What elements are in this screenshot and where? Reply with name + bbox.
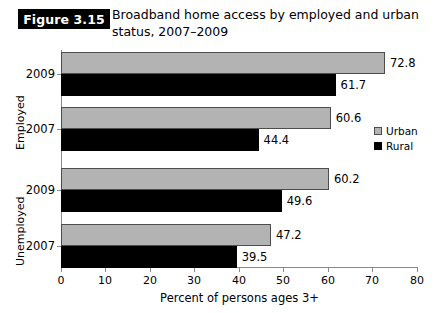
bar-employed-2007-urban[interactable] [61, 107, 331, 129]
bar-employed-2009-rural[interactable] [61, 74, 336, 96]
bar-value-employed-2009-rural: 61.7 [341, 74, 367, 96]
x-tick-label: 10 [90, 274, 120, 287]
bar-value-unemployed-2007-rural: 39.5 [242, 246, 268, 268]
x-axis-tick [150, 268, 151, 272]
x-axis-tick [372, 268, 373, 272]
x-tick-label: 20 [135, 274, 165, 287]
bar-value-employed-2007-urban: 60.6 [336, 107, 362, 129]
bar-value-employed-2007-rural: 44.4 [264, 129, 290, 151]
x-axis-title: Percent of persons ages 3+ [61, 291, 418, 305]
legend-label-rural: Rural [386, 140, 413, 152]
bar-value-unemployed-2009-urban: 60.2 [334, 168, 360, 190]
x-axis-tick [194, 268, 195, 272]
x-axis-tick [61, 268, 62, 272]
group-label-unemployed: Unemployed [14, 196, 27, 266]
figure-container: Figure 3.15 Broadband home access by emp… [0, 0, 436, 313]
figure-title-line-2: status, 2007–2009 [112, 23, 424, 40]
figure-title-line-1: Broadband home access by employed and ur… [112, 7, 419, 22]
plot-area: 0 10 20 30 40 50 60 70 80 72.8 61.7 60.6… [61, 50, 417, 267]
bar-value-employed-2009-urban: 72.8 [390, 52, 416, 74]
figure-title: Broadband home access by employed and ur… [112, 6, 424, 40]
year-label-employed-2009: 2009 [15, 67, 55, 81]
bar-employed-2007-rural[interactable] [61, 129, 259, 151]
legend-item-urban[interactable]: Urban [374, 124, 418, 137]
x-axis-tick [239, 268, 240, 272]
year-label-employed-2007: 2007 [15, 122, 55, 136]
x-tick-label: 80 [402, 274, 432, 287]
x-tick-label: 60 [313, 274, 343, 287]
x-axis-tick [417, 268, 418, 272]
x-tick-label: 30 [179, 274, 209, 287]
x-tick-label: 40 [224, 274, 254, 287]
x-tick-label: 50 [268, 274, 298, 287]
x-tick-label: 0 [46, 274, 76, 287]
bar-unemployed-2007-rural[interactable] [61, 246, 237, 268]
x-tick-label: 70 [357, 274, 387, 287]
bar-unemployed-2007-urban[interactable] [61, 224, 271, 246]
bar-value-unemployed-2007-urban: 47.2 [276, 224, 302, 246]
legend-item-rural[interactable]: Rural [374, 139, 418, 152]
year-label-unemployed-2009: 2009 [15, 183, 55, 197]
bar-unemployed-2009-rural[interactable] [61, 190, 282, 212]
square-swatch-icon [374, 127, 382, 135]
x-axis-tick [328, 268, 329, 272]
chart-legend: Urban Rural [374, 124, 418, 154]
x-axis-tick [105, 268, 106, 272]
year-label-unemployed-2007: 2007 [15, 239, 55, 253]
bar-unemployed-2009-urban[interactable] [61, 168, 329, 190]
legend-label-urban: Urban [386, 125, 418, 137]
figure-number-badge: Figure 3.15 [18, 9, 110, 29]
bar-employed-2009-urban[interactable] [61, 52, 385, 74]
x-axis-tick [283, 268, 284, 272]
bar-value-unemployed-2009-rural: 49.6 [287, 190, 313, 212]
square-swatch-icon [374, 142, 382, 150]
